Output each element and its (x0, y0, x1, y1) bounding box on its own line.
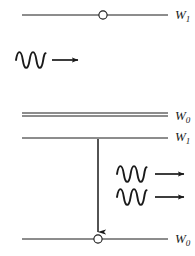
electron-marker-lower-level (94, 235, 102, 243)
panel-after (22, 116, 184, 243)
incident-photon-wave (16, 52, 46, 68)
emitted-photon-wave-2 (117, 189, 147, 205)
electron-marker-upper-level (99, 11, 107, 19)
level-label-symbol: W (175, 108, 186, 123)
level-label-symbol: W (175, 231, 186, 246)
panel-before (16, 11, 168, 113)
level-label-w1-top: W1 (175, 8, 190, 21)
diagram-canvas (0, 0, 195, 256)
emitted-photon-wave-1 (117, 166, 147, 182)
level-label-w0-bottom: W0 (175, 232, 190, 245)
level-label-symbol: W (175, 129, 186, 144)
level-label-subscript: 0 (186, 238, 191, 248)
level-label-w1-mid: W1 (175, 130, 190, 143)
level-label-symbol: W (175, 7, 186, 22)
level-label-subscript: 1 (186, 14, 191, 24)
level-label-subscript: 1 (186, 136, 191, 146)
energy-level-diagram: W1 W0 W1 W0 (0, 0, 195, 256)
level-label-w0-mid: W0 (175, 109, 190, 122)
level-label-subscript: 0 (186, 115, 191, 125)
